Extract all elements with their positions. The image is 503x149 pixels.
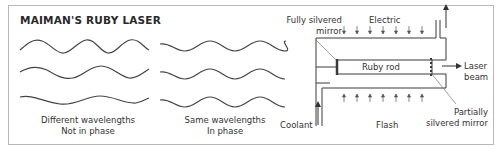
- laser-beam-label: Laser beam: [464, 61, 488, 83]
- caption-line: In phase: [180, 126, 270, 137]
- fully-silvered-mirror-label: Fully silvered mirror: [270, 15, 342, 37]
- different-wavelengths-waves: [20, 40, 149, 105]
- arrow-down-icon: [421, 26, 424, 34]
- arrow-down-icon: [408, 26, 411, 34]
- partially-silvered-mirror-label: Partially silvered mirror: [420, 107, 488, 129]
- arrow-up-icon: [408, 94, 411, 102]
- electric-arrows: [343, 26, 424, 34]
- arrow-down-icon: [395, 26, 398, 34]
- arrow-up-icon: [356, 94, 359, 102]
- label-line: silvered mirror: [420, 118, 488, 129]
- flash-arrows: [343, 94, 424, 102]
- wave-3: [160, 97, 285, 107]
- laser-beam-arrow-icon: [442, 63, 462, 69]
- label-line: Partially: [420, 107, 488, 118]
- arrow-down-icon: [356, 26, 359, 34]
- electric-label: Electric: [369, 15, 401, 26]
- wave-short: [20, 40, 149, 53]
- label-line: Laser: [464, 61, 488, 72]
- same-wavelengths-caption: Same wavelengths In phase: [180, 115, 270, 137]
- label-line: beam: [464, 72, 488, 83]
- same-wavelengths-waves: [160, 41, 288, 107]
- arrow-up-icon: [382, 94, 385, 102]
- ruby-rod-label: Ruby rod: [362, 62, 400, 73]
- wave-2: [160, 69, 285, 79]
- wave-long: [20, 96, 149, 104]
- outflow-arrow-icon: [443, 4, 449, 28]
- caption-line: Different wavelengths: [40, 115, 136, 126]
- wave-1: [160, 41, 288, 51]
- arrow-up-icon: [343, 94, 346, 102]
- arrow-up-icon: [369, 94, 372, 102]
- coolant-label: Coolant: [280, 120, 313, 131]
- caption-line: Same wavelengths: [180, 115, 270, 126]
- arrow-down-icon: [369, 26, 372, 34]
- label-line: Fully silvered: [270, 15, 342, 26]
- arrow-down-icon: [382, 26, 385, 34]
- flash-label: Flash: [376, 120, 398, 131]
- arrow-down-icon: [343, 26, 346, 34]
- wave-medium: [20, 66, 149, 78]
- arrow-up-icon: [421, 94, 424, 102]
- different-wavelengths-caption: Different wavelengths Not in phase: [40, 115, 136, 137]
- arrow-up-icon: [395, 94, 398, 102]
- caption-line: Not in phase: [40, 126, 136, 137]
- label-line: mirror: [270, 26, 342, 37]
